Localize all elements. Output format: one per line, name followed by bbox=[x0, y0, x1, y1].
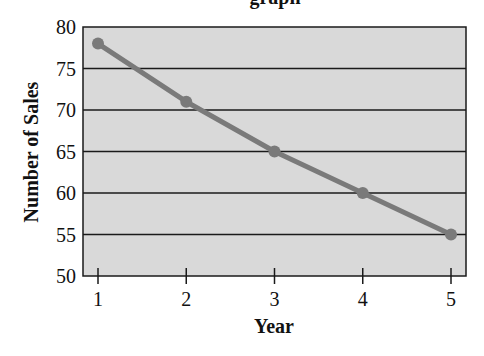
y-tick-label: 80 bbox=[56, 16, 76, 38]
line-chart: graph 50556065707580 12345 Year Number o… bbox=[0, 0, 484, 356]
x-tick-label: 2 bbox=[181, 288, 191, 310]
data-point-marker bbox=[357, 187, 369, 199]
x-tick-label: 4 bbox=[358, 288, 368, 310]
chart-canvas: graph 50556065707580 12345 Year Number o… bbox=[0, 0, 484, 356]
y-tick-label: 65 bbox=[56, 141, 76, 163]
y-tick-label: 55 bbox=[56, 224, 76, 246]
y-tick-label: 50 bbox=[56, 265, 76, 287]
data-point-marker bbox=[269, 146, 281, 158]
data-point-marker bbox=[445, 229, 457, 241]
x-tick-label: 1 bbox=[93, 288, 103, 310]
x-axis-title: Year bbox=[254, 315, 294, 337]
data-point-marker bbox=[180, 96, 192, 108]
y-tick-label: 60 bbox=[56, 182, 76, 204]
y-tick-label: 70 bbox=[56, 99, 76, 121]
y-axis-ticks: 50556065707580 bbox=[56, 16, 76, 287]
chart-title: graph bbox=[249, 0, 300, 9]
x-tick-label: 5 bbox=[446, 288, 456, 310]
y-tick-label: 75 bbox=[56, 58, 76, 80]
y-axis-title: Number of Sales bbox=[20, 81, 42, 222]
x-tick-label: 3 bbox=[270, 288, 280, 310]
data-point-marker bbox=[92, 38, 104, 50]
